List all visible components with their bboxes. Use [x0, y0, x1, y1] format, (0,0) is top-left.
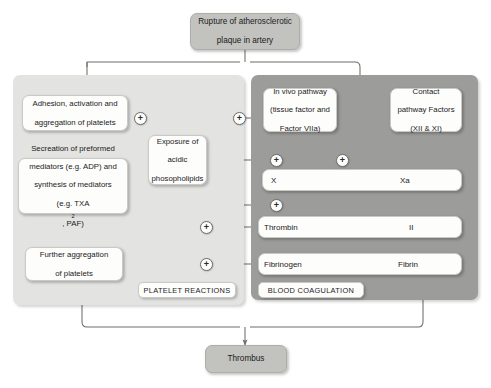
phospholipids-line-2: acidic	[148, 155, 206, 164]
plus-icon-adhesion-to-phospholipids: +	[134, 112, 147, 125]
plus-symbol: +	[204, 223, 209, 232]
secretion-line-2: mediators (e.g. ADP) and	[26, 162, 120, 171]
phospholipids-line-1: Exposure of	[148, 137, 206, 146]
plus-icon-thrombin-to-platelets: +	[200, 221, 213, 234]
tag-platelet-reactions: PLATELET REACTIONS	[138, 282, 236, 298]
plus-icon-phospholipids-to-prothrombin: +	[270, 199, 283, 212]
phospholipids-line-3: phosopholipids	[148, 174, 206, 183]
plus-symbol: +	[274, 201, 279, 210]
tag-blood-coagulation-label: BLOOD COAGULATION	[268, 286, 354, 295]
tag-blood-coagulation: BLOOD COAGULATION	[258, 282, 364, 298]
secretion-line-1: Secreation of preformed	[26, 144, 120, 153]
label-prothrombin-ii: II	[409, 223, 413, 232]
plus-symbol: +	[237, 114, 242, 123]
node-adhesion-activation-aggregation[interactable]: Adhesion, activation and aggregation of …	[22, 95, 128, 131]
further-agg-line-2: of platelets	[37, 269, 111, 278]
plus-symbol: +	[138, 114, 143, 123]
secretion-line-3: synthesis of mediators	[26, 180, 120, 189]
node-secretion-of-mediators[interactable]: Secreation of preformed mediators (e.g. …	[18, 158, 128, 214]
edge-coagulation-to-thrombus	[250, 300, 423, 327]
plus-symbol: +	[204, 260, 209, 269]
secretion-line-4-end: , PAF)	[29, 219, 117, 228]
contact-line-1: Contact	[394, 87, 457, 96]
node-contact-pathway-factors[interactable]: Contact pathway Factors (XII & XI)	[390, 88, 462, 132]
thrombosis-diagram: Rupture of atherosclerotic plaque in art…	[0, 0, 491, 388]
thrombus-label: Thrombus	[225, 354, 268, 364]
contact-line-2: pathway Factors	[394, 105, 457, 114]
contact-line-3: (XII & XI)	[394, 124, 457, 133]
label-factor-xa: Xa	[400, 176, 410, 185]
plus-symbol: +	[274, 156, 279, 165]
node-in-vivo-pathway[interactable]: In vivo pathway (tissue factor and Facto…	[263, 88, 337, 132]
plus-icon-phospholipids-to-factor-xa: +	[336, 154, 349, 167]
secretion-line-4-main: (e.g. TXA	[29, 199, 117, 208]
invivo-line-1: In vivo pathway	[267, 87, 333, 96]
rupture-line-2: plaque in artery	[195, 36, 295, 46]
label-fibrinogen: Fibrinogen	[264, 260, 302, 269]
node-thrombus[interactable]: Thrombus	[205, 345, 287, 373]
invivo-line-3: Factor VIIa)	[267, 124, 333, 133]
edge-platelet-to-thrombus	[82, 305, 240, 327]
invivo-line-2: (tissue factor and	[267, 105, 333, 114]
plus-symbol: +	[340, 156, 345, 165]
label-factor-x: X	[271, 176, 276, 185]
plus-icon-phospholipids-to-invivo: +	[233, 112, 246, 125]
node-exposure-acidic-phospholipids[interactable]: Exposure of acidic phosopholipids	[148, 135, 207, 185]
node-rupture-of-plaque[interactable]: Rupture of atherosclerotic plaque in art…	[190, 13, 300, 50]
secretion-line-4: (e.g. TXA2, PAF)	[26, 199, 120, 229]
tag-platelet-reactions-label: PLATELET REACTIONS	[144, 286, 231, 295]
rupture-line-1: Rupture of atherosclerotic	[195, 17, 295, 27]
node-further-aggregation[interactable]: Further aggregation of platelets	[25, 247, 123, 281]
label-thrombin: Thrombin	[264, 223, 298, 232]
plus-icon-phospholipids-to-factor-x: +	[270, 154, 283, 167]
plus-icon-fibrin-to-aggregation: +	[200, 258, 213, 271]
edge-trunk-left	[87, 62, 240, 67]
label-fibrin: Fibrin	[398, 260, 418, 269]
adhesion-line-2: aggregation of platelets	[30, 118, 121, 127]
further-agg-line-1: Further aggregation	[37, 250, 111, 259]
row-factor-x-to-xa[interactable]	[262, 169, 462, 191]
adhesion-line-1: Adhesion, activation and	[30, 99, 121, 108]
secretion-line-4-subscript: 2	[71, 213, 74, 219]
